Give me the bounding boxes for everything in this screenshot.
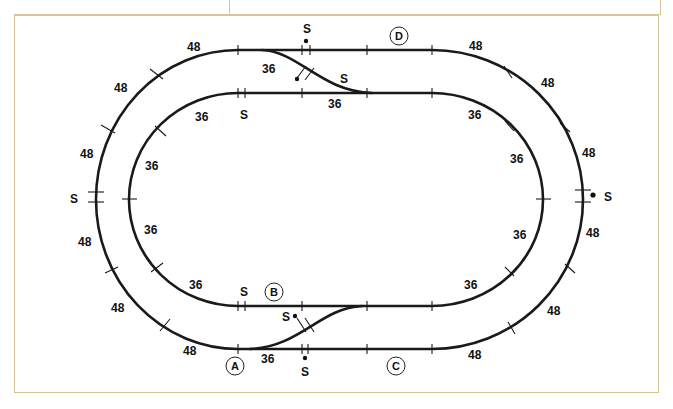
- outer-radius-label: 48: [78, 235, 92, 249]
- switch-label: S: [303, 22, 311, 36]
- switch-control-dot: [295, 77, 299, 81]
- inner-radius-label: 36: [195, 110, 209, 124]
- outer-radius-label: 48: [114, 81, 128, 95]
- svg-text:D: D: [395, 30, 403, 42]
- inner-radius-label: 36: [510, 152, 524, 166]
- outer-radius-label: 48: [111, 301, 125, 315]
- outer-loop-track: [96, 50, 583, 349]
- svg-text:B: B: [270, 286, 278, 298]
- outer-radius-label: 48: [469, 39, 483, 53]
- crossover-radius-label: 36: [261, 352, 275, 366]
- switch-label: S: [282, 310, 290, 324]
- inner-radius-label: 36: [513, 228, 527, 242]
- point-marker-b: B: [265, 283, 283, 301]
- outer-radius-label: 48: [183, 344, 197, 358]
- inner-loop-track: [129, 93, 543, 306]
- switch-label: S: [70, 192, 78, 206]
- outer-radius-label: 48: [80, 147, 94, 161]
- inner-radius-label: 36: [464, 278, 478, 292]
- bottom-crossover-track: [250, 306, 362, 349]
- switch-control-dot: [304, 39, 308, 43]
- inner-radius-label: 36: [144, 223, 158, 237]
- point-marker-d: D: [390, 27, 408, 45]
- svg-text:A: A: [231, 360, 239, 372]
- inner-radius-label: 36: [145, 159, 159, 173]
- switch-label: S: [604, 190, 612, 204]
- switch-control-dot: [303, 356, 307, 360]
- switch-label: S: [340, 72, 348, 86]
- switch-control-dot: [293, 314, 297, 318]
- outer-radius-label: 48: [187, 40, 201, 54]
- track-joints: [88, 45, 591, 354]
- outer-radius-label: 48: [468, 348, 482, 362]
- outer-radius-label: 48: [541, 76, 555, 90]
- svg-text:C: C: [392, 360, 400, 372]
- switch-label: S: [240, 285, 248, 299]
- inner-radius-label: 36: [189, 278, 203, 292]
- outer-radius-label: 48: [586, 226, 600, 240]
- switch-label: S: [301, 365, 309, 379]
- switch-label: S: [240, 108, 248, 122]
- point-marker-c: C: [387, 357, 405, 375]
- track-diagram: 48 48 48 48 48 48 48 48 48 48 48 48 36 3…: [0, 0, 673, 409]
- outer-radius-label: 48: [547, 304, 561, 318]
- switch-control-dot: [590, 192, 595, 197]
- crossover-radius-label: 36: [328, 97, 342, 111]
- point-marker-a: A: [226, 357, 244, 375]
- top-crossover-track: [262, 50, 372, 93]
- outer-radius-label: 48: [582, 146, 596, 160]
- inner-radius-label: 36: [468, 108, 482, 122]
- crossover-radius-label: 36: [262, 62, 276, 76]
